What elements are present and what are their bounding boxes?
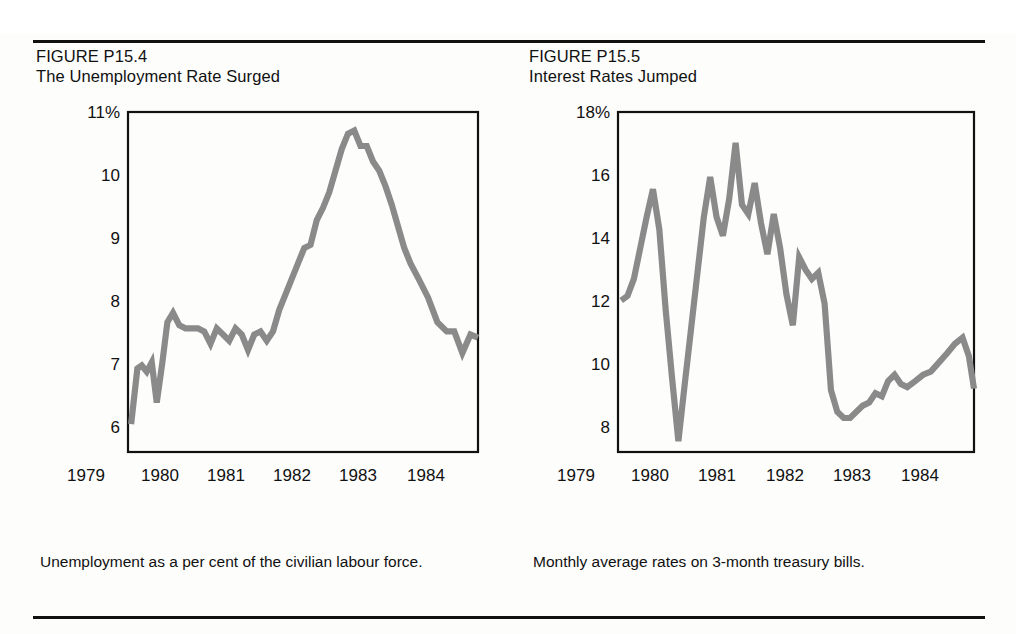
x-tick-label: 1983: [833, 466, 871, 485]
y-tick-label: 6: [111, 418, 120, 437]
y-tick-label: 8: [601, 418, 610, 437]
x-tick-label: 1983: [339, 466, 377, 485]
plot-area-right: [618, 112, 974, 452]
figure-title-right: Interest Rates Jumped: [529, 66, 999, 86]
x-tick-label: 1982: [766, 466, 804, 485]
x-tick-label: 1982: [273, 466, 311, 485]
y-axis-labels-left: 11% 10 9 8 7 6: [87, 103, 120, 437]
figure-number-left: FIGURE P15.4: [36, 46, 506, 66]
figure-panel-p154: FIGURE P15.4 The Unemployment Rate Surge…: [36, 46, 506, 606]
chart-left: 11% 10 9 8 7 6 1979 1980 1981 1982 1983: [36, 100, 506, 500]
chart-right: 18% 16 14 12 10 8 1979 1980 1981 1982 19: [529, 100, 999, 500]
y-tick-label: 14: [591, 229, 610, 248]
x-axis-labels-left: 1979 1980 1981 1982 1983 1984: [67, 466, 445, 485]
x-tick-label: 1980: [631, 466, 669, 485]
figure-heading-right: FIGURE P15.5 Interest Rates Jumped: [529, 46, 999, 86]
y-tick-label: 18%: [576, 103, 610, 122]
figure-caption-left: Unemployment as a per cent of the civili…: [40, 551, 476, 572]
scan-margin: [0, 0, 1016, 34]
bottom-horizontal-rule: [33, 616, 985, 619]
figure-heading-left: FIGURE P15.4 The Unemployment Rate Surge…: [36, 46, 506, 86]
y-tick-label: 11%: [87, 103, 120, 122]
y-tick-label: 10: [591, 355, 610, 374]
figure-panel-p155: FIGURE P15.5 Interest Rates Jumped 18% 1…: [529, 46, 999, 606]
interest-rate-line-chart: 18% 16 14 12 10 8 1979 1980 1981 1982 19: [529, 100, 999, 500]
unemployment-line-chart: 11% 10 9 8 7 6 1979 1980 1981 1982 1983: [36, 100, 506, 500]
x-tick-label: 1981: [207, 466, 245, 485]
y-tick-label: 9: [111, 229, 120, 248]
plot-area-left: [128, 112, 478, 452]
y-tick-label: 10: [101, 166, 120, 185]
x-tick-label: 1984: [407, 466, 445, 485]
x-axis-labels-right: 1979 1980 1981 1982 1983 1984: [557, 466, 939, 485]
figure-page: FIGURE P15.4 The Unemployment Rate Surge…: [0, 0, 1016, 634]
series-line-interest-rate: [621, 143, 974, 441]
x-tick-label: 1979: [67, 466, 105, 485]
top-horizontal-rule: [33, 40, 985, 43]
x-tick-label: 1981: [698, 466, 736, 485]
y-axis-labels-right: 18% 16 14 12 10 8: [576, 103, 610, 437]
x-tick-label: 1979: [557, 466, 595, 485]
y-tick-label: 7: [111, 355, 120, 374]
series-line-unemployment: [131, 131, 478, 425]
figure-caption-right: Monthly average rates on 3-month treasur…: [533, 551, 969, 572]
x-tick-label: 1980: [141, 466, 179, 485]
plot-frame: [128, 112, 478, 452]
figure-title-left: The Unemployment Rate Surged: [36, 66, 506, 86]
x-tick-label: 1984: [901, 466, 939, 485]
figure-number-right: FIGURE P15.5: [529, 46, 999, 66]
y-tick-label: 8: [111, 292, 120, 311]
y-tick-label: 12: [591, 292, 610, 311]
y-tick-label: 16: [591, 166, 610, 185]
